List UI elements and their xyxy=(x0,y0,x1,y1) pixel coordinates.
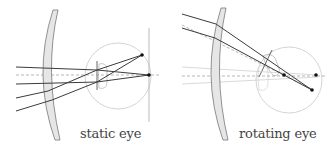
optics-figure: static eye rotating eye xyxy=(0,0,333,155)
static-eye-panel xyxy=(16,10,160,140)
static-eye-caption: static eye xyxy=(80,126,141,141)
spectacle-lens xyxy=(211,8,228,140)
rotating-eye-caption: rotating eye xyxy=(239,126,317,141)
off-axis-image-point xyxy=(140,53,144,57)
rotating-eye-panel xyxy=(182,8,325,140)
rotated-image-point xyxy=(310,88,314,92)
light-rays xyxy=(16,55,149,111)
axial-image-point xyxy=(314,73,318,77)
faint-axial-rays xyxy=(182,67,318,84)
center-of-rotation-point xyxy=(282,73,286,77)
axial-image-point xyxy=(147,73,151,77)
